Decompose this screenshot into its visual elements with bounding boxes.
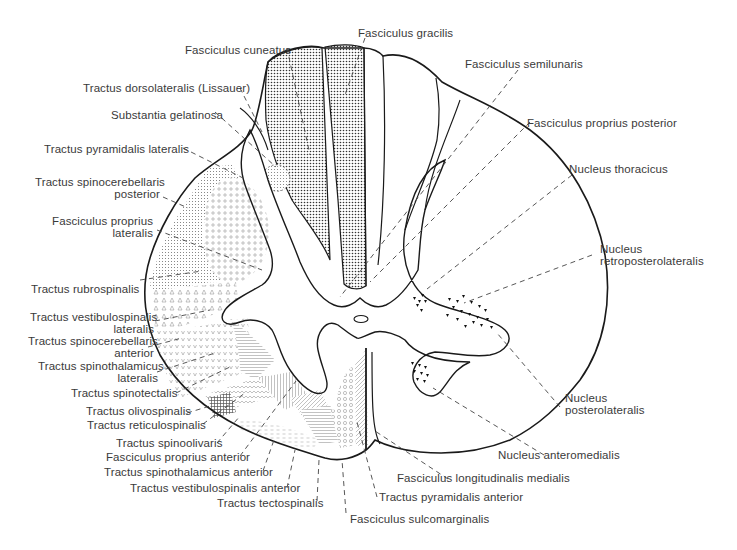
- label-tractus-olivospinalis: Tractus olivospinalis: [86, 405, 191, 417]
- label-fasciculus-proprius-lateralis: Fasciculus proprius lateralis: [44, 215, 153, 239]
- label-tractus-spinocerebellaris-anterior: Tractus spinocerebellaris anterior: [28, 335, 154, 359]
- label-nucleus-thoracicus: Nucleus thoracicus: [569, 163, 668, 175]
- label-tractus-rubrospinalis: Tractus rubrospinalis: [31, 283, 139, 295]
- label-substantia-gelatinosa: Substantia gelatinosa: [111, 109, 223, 121]
- label-fasciculus-gracilis: Fasciculus gracilis: [358, 27, 453, 39]
- label-tractus-pyramidalis-lateralis: Tractus pyramidalis lateralis: [44, 143, 189, 155]
- label-tractus-spinoolivaris: Tractus spinoolivaris: [116, 437, 223, 449]
- label-nucleus-retroposterolateralis: Nucleus retroposterolateralis: [600, 243, 704, 267]
- region-fasciculus-gracilis: [325, 45, 366, 289]
- label-fasciculus-longitudinalis-medialis: Fasciculus longitudinalis medialis: [397, 472, 570, 484]
- label-tractus-spinocerebellaris-posterior: Tractus spinocerebellaris posterior: [35, 176, 160, 200]
- label-fasciculus-cuneatus: Fasciculus cuneatus: [185, 44, 291, 56]
- nucleus-retroposterolateralis-cells: [446, 295, 493, 329]
- label-fasciculus-proprius-posterior: Fasciculus proprius posterior: [527, 117, 677, 129]
- label-tractus-vestibulospinalis-lateralis: Tractus vestibulospinalis lateralis: [30, 311, 154, 335]
- label-fasciculus-proprius-anterior: Fasciculus proprius anterior: [106, 451, 250, 463]
- spinal-cord-diagram: Fasciculus gracilis Fasciculus cuneatus …: [0, 0, 737, 550]
- label-fasciculus-sulcomarginalis: Fasciculus sulcomarginalis: [350, 513, 489, 525]
- central-canal: [354, 316, 368, 323]
- label-tractus-spinotectalis: Tractus spinotectalis: [71, 387, 178, 399]
- label-tractus-vestibulospinalis-anterior: Tractus vestibulospinalis anterior: [130, 482, 300, 494]
- label-fasciculus-semilunaris: Fasciculus semilunaris: [465, 58, 583, 70]
- label-nucleus-posterolateralis: Nucleus posterolateralis: [565, 392, 645, 416]
- label-tractus-dorsolateralis: Tractus dorsolateralis (Lissauer): [83, 82, 250, 94]
- region-fasciculus-sulcomarginalis: [336, 365, 355, 442]
- region-fasciculus-cuneatus: [265, 47, 330, 260]
- label-nucleus-anteromedialis: Nucleus anteromedialis: [498, 449, 620, 461]
- label-tractus-pyramidalis-anterior: Tractus pyramidalis anterior: [379, 491, 523, 503]
- label-tractus-reticulospinalis: Tractus reticulospinalis: [87, 419, 206, 431]
- region-fasciculus-proprius-anterior: [236, 420, 320, 450]
- label-tractus-tectospinalis: Tractus tectospinalis: [217, 497, 324, 509]
- region-tractus-pyramidalis-lateralis: [204, 177, 269, 283]
- label-tractus-spinothalamicus-anterior: Tractus spinothalamicus anterior: [104, 466, 273, 478]
- label-tractus-spinothalamicus-lateralis: Tractus spinothalamicus lateralis: [38, 360, 158, 384]
